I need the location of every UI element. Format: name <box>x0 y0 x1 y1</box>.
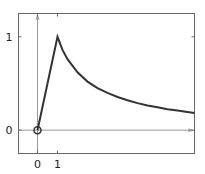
x-tick-label: 0 <box>34 158 41 171</box>
y-tick-label: 0 <box>6 124 13 137</box>
series-line <box>38 37 195 130</box>
y-tick-label: 1 <box>6 31 13 44</box>
plot-frame <box>19 14 195 154</box>
chart: 0101 <box>0 0 205 174</box>
x-tick-label: 1 <box>54 158 61 171</box>
